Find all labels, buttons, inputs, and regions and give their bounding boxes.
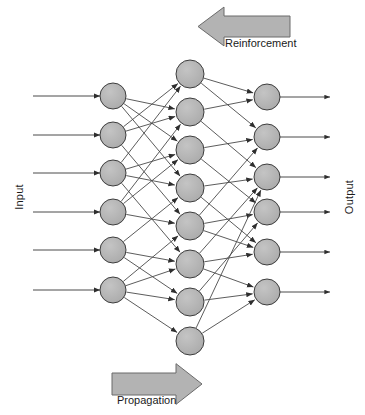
network-edge <box>124 297 177 332</box>
input-layer-node-2 <box>100 122 126 148</box>
network-edge <box>121 86 180 162</box>
input-layer-node-1 <box>100 83 126 109</box>
output-layer-node-5 <box>254 239 280 265</box>
hidden-layer-node-2 <box>176 98 204 126</box>
network-edge <box>204 78 253 93</box>
network-edge <box>124 104 177 141</box>
network-edge <box>121 124 180 201</box>
network-edge <box>126 292 174 300</box>
network-edge <box>204 139 252 147</box>
network-edge <box>204 100 253 109</box>
network-edge <box>196 190 261 328</box>
network-edge <box>126 99 175 109</box>
network-edge <box>199 148 257 215</box>
propagation-arrow-label: Propagation <box>117 394 176 406</box>
network-edge <box>123 236 178 281</box>
input-axis-label: Input <box>13 167 25 227</box>
network-edge <box>124 84 178 127</box>
hidden-layer-node-3 <box>176 136 204 164</box>
output-axis-label: Output <box>343 162 355 232</box>
network-edge <box>126 214 174 223</box>
network-edge <box>124 198 178 242</box>
network-edge <box>204 231 254 248</box>
neural-network-diagram: Input Output Reinforcement Propagation <box>0 0 365 415</box>
output-layer-node-1 <box>254 84 280 110</box>
output-signal-arrows <box>280 97 330 292</box>
network-edge <box>126 269 176 286</box>
output-layer-node-3 <box>254 164 280 190</box>
network-edge <box>126 176 175 185</box>
hidden-layer-node-6 <box>176 250 204 278</box>
hidden-layer-node-8 <box>176 327 204 355</box>
network-edge <box>202 300 255 333</box>
hidden-layer-node-4 <box>176 174 204 202</box>
network-edge <box>122 106 180 176</box>
input-signal-arrows <box>33 96 100 290</box>
hidden-layer-node-5 <box>176 212 204 240</box>
input-layer-node-3 <box>100 160 126 186</box>
network-edge <box>199 223 257 291</box>
output-layer-node-2 <box>254 124 280 150</box>
network-edge <box>201 83 256 128</box>
network-edge <box>124 160 178 204</box>
network-edge <box>200 188 258 253</box>
network-canvas <box>0 0 365 415</box>
network-edge <box>124 258 177 294</box>
network-edge <box>204 179 252 186</box>
output-layer-node-6 <box>254 279 280 305</box>
reinforcement-arrow-label: Reinforcement <box>225 37 297 49</box>
output-layer-node-4 <box>254 199 280 225</box>
input-layer-node-5 <box>100 237 126 263</box>
input-layer-node-6 <box>100 277 126 303</box>
hidden-layer-node-7 <box>176 288 204 316</box>
hidden-layer-node-1 <box>176 60 204 88</box>
input-layer-node-4 <box>100 199 126 225</box>
network-edge <box>126 252 174 261</box>
network-edge <box>201 121 256 167</box>
